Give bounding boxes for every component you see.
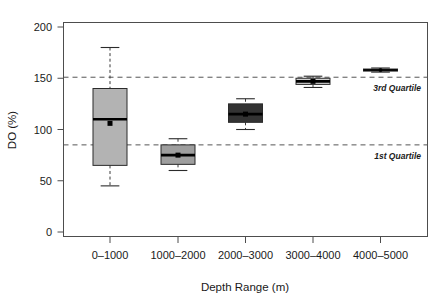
mean-marker <box>243 112 248 117</box>
y-axis-title: DO (%) <box>6 111 18 150</box>
x-axis-title: Depth Range (m) <box>201 281 289 293</box>
reference-line-label: 1st Quartile <box>374 151 421 161</box>
reference-line-label: 3rd Quartile <box>373 83 421 93</box>
x-tick-label: 0–1000 <box>92 249 129 261</box>
mean-marker <box>108 121 113 126</box>
box-iqr <box>93 89 127 166</box>
x-tick-label: 2000–3000 <box>218 249 273 261</box>
y-tick-label: 150 <box>34 72 52 84</box>
boxplot-figure: 050100150200 0–10001000–20002000–3000300… <box>0 0 443 298</box>
boxplot-item <box>364 68 398 72</box>
mean-marker <box>311 79 316 84</box>
y-tick-label: 200 <box>34 21 52 33</box>
y-tick-label: 0 <box>46 226 52 238</box>
chart-canvas: 050100150200 0–10001000–20002000–3000300… <box>0 0 443 298</box>
y-tick-label: 100 <box>34 124 52 136</box>
y-tick-label: 50 <box>40 175 52 187</box>
x-tick-label: 4000–5000 <box>353 249 408 261</box>
x-tick-label: 1000–2000 <box>150 249 205 261</box>
x-tick-label: 3000–4000 <box>285 249 340 261</box>
mean-marker <box>379 68 382 71</box>
mean-marker <box>176 153 181 158</box>
